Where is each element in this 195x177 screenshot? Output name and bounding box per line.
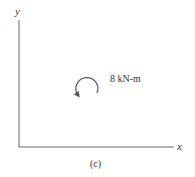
y-axis-label: y [14,5,20,17]
figure-caption: (c) [90,158,101,170]
moment-diagram: y x 8 kN-m (c) [0,0,195,177]
moment-label: 8 kN-m [110,73,141,84]
x-axis-label: x [176,140,182,152]
moment-arrow-icon [76,78,98,95]
